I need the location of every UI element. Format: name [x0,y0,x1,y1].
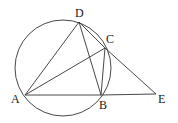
diagram-canvas: ABCDE [0,0,178,123]
geometry-diagram: ABCDE [0,0,178,123]
point-label-C: C [106,32,114,46]
segment-CE [105,48,156,94]
segment-AC [25,48,105,95]
point-label-D: D [75,6,84,20]
segment-CB [101,48,105,95]
point-label-B: B [99,98,107,112]
point-label-A: A [11,92,20,106]
segment-AD [25,22,79,95]
segment-BE [101,94,156,95]
circle [15,20,111,116]
point-label-E: E [158,92,165,106]
